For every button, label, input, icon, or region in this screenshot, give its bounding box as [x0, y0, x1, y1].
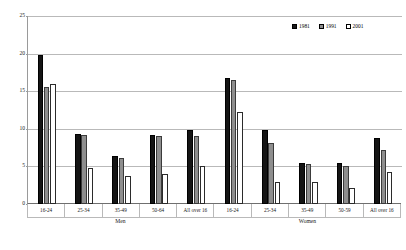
- bar-1981-50-64: [150, 135, 156, 204]
- bar-2001-25-34: [275, 182, 281, 204]
- bars-layer: [28, 16, 402, 204]
- bar-2001-25-34: [88, 168, 94, 204]
- bar-1991-16-24: [44, 87, 50, 204]
- category-label-6: 25-34: [252, 204, 289, 218]
- bar-1981-25-34: [75, 134, 81, 204]
- bar-2001-50-59: [349, 188, 355, 204]
- bar-1991-All over 16: [194, 136, 200, 204]
- y-axis-label: 5: [22, 164, 25, 170]
- y-axis-label: 15: [19, 88, 25, 94]
- category-label-0: 16-24: [27, 204, 65, 218]
- y-axis-label: 20: [19, 51, 25, 57]
- category-label-4: All over 16: [177, 204, 214, 218]
- bar-1981-16-24: [38, 55, 44, 204]
- bar-chart: 1981 1991 2001 0510152025 16-2425-3435-4…: [0, 0, 406, 250]
- plot-area: 0510152025: [27, 16, 401, 204]
- bar-2001-All over 16: [387, 172, 393, 204]
- bar-1991-25-34: [268, 143, 274, 204]
- bar-1981-25-34: [262, 130, 268, 204]
- bar-1991-50-59: [343, 166, 349, 204]
- bar-1981-35-49: [299, 163, 305, 204]
- group-axis: Men Women: [27, 219, 401, 231]
- y-axis-label: 0: [22, 201, 25, 207]
- bar-1981-All over 16: [374, 138, 380, 204]
- category-label-5: 16-24: [214, 204, 251, 218]
- category-label-9: All over 16: [364, 204, 401, 218]
- bar-1991-35-49: [306, 164, 312, 204]
- category-label-3: 50-64: [140, 204, 177, 218]
- group-label-women: Women: [214, 219, 401, 231]
- y-axis-label: 25: [19, 13, 25, 19]
- bar-2001-50-64: [162, 174, 168, 204]
- bar-2001-16-24: [237, 112, 243, 204]
- category-label-8: 50-59: [326, 204, 363, 218]
- bar-1981-16-24: [225, 78, 231, 204]
- bar-1991-16-24: [231, 80, 237, 204]
- bar-1991-All over 16: [381, 150, 387, 204]
- bar-1981-35-49: [112, 156, 118, 204]
- bar-2001-35-49: [125, 176, 131, 204]
- bar-1991-25-34: [81, 135, 87, 204]
- category-label-7: 35-49: [289, 204, 326, 218]
- bar-1991-50-64: [156, 136, 162, 204]
- bar-1981-50-59: [337, 163, 343, 204]
- category-label-1: 25-34: [65, 204, 102, 218]
- category-axis: 16-2425-3435-4950-64All over 1616-2425-3…: [27, 204, 401, 218]
- bar-2001-35-49: [312, 182, 318, 204]
- bar-2001-16-24: [50, 84, 56, 204]
- category-label-2: 35-49: [103, 204, 140, 218]
- group-label-men: Men: [27, 219, 214, 231]
- y-axis-label: 10: [19, 126, 25, 132]
- bar-1991-35-49: [119, 158, 125, 204]
- bar-1981-All over 16: [187, 130, 193, 204]
- bar-2001-All over 16: [200, 166, 206, 204]
